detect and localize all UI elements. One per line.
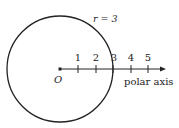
polar-axis-label: polar axis — [124, 76, 173, 87]
circle-label: r = 3 — [93, 13, 118, 24]
tick-label: 5 — [145, 52, 151, 63]
tick-label: 1 — [75, 52, 81, 63]
axis-arrow-icon — [160, 67, 166, 72]
origin-label: O — [54, 74, 62, 85]
polar-diagram: 1 2 3 4 5 O polar axis r = 3 — [0, 0, 179, 128]
origin-point — [59, 68, 62, 71]
tick-label: 4 — [128, 52, 134, 63]
tick-label: 3 — [111, 52, 117, 63]
tick-label: 2 — [93, 52, 99, 63]
